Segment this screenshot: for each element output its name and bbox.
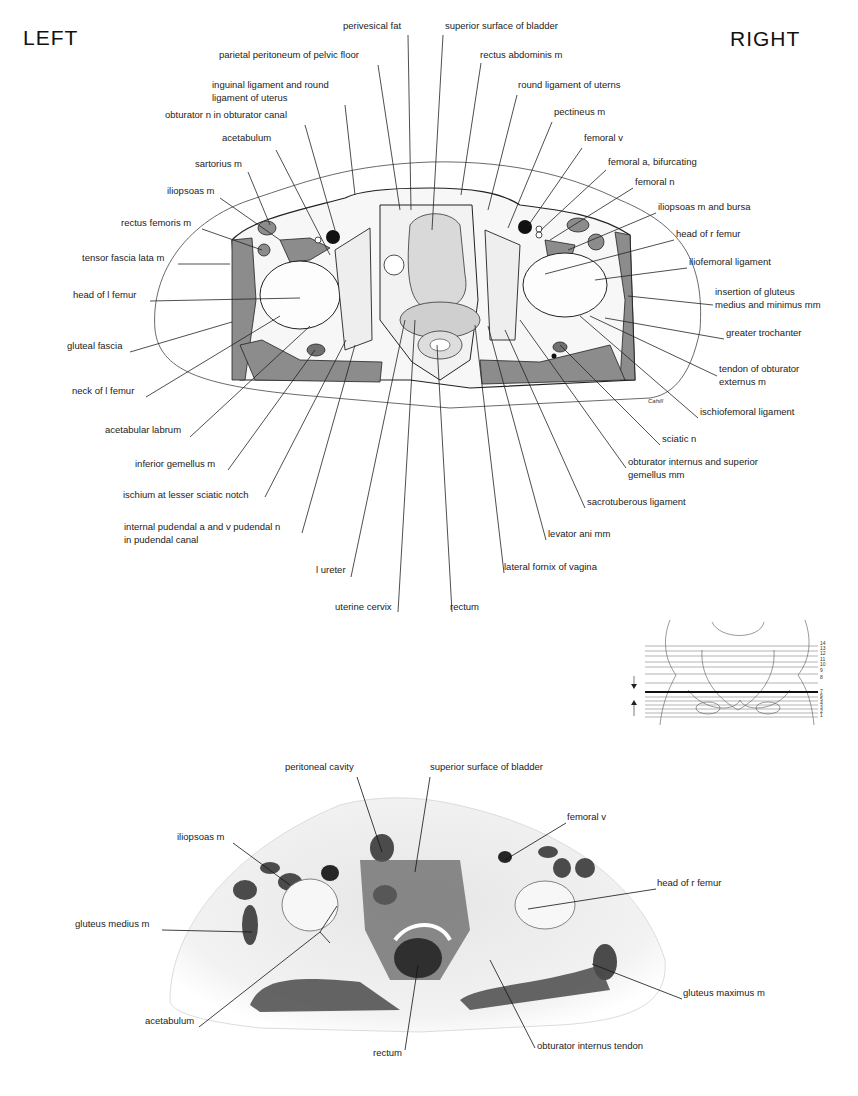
photo-label-gluteus-maximus: gluteus maximus m bbox=[683, 986, 765, 999]
photo-label-gluteus-medius: gluteus medius m bbox=[75, 917, 149, 930]
drawing-label-superior-surface-bladder: superior surface of bladder bbox=[445, 19, 558, 32]
drawing-label-levator-ani: levator ani mm bbox=[548, 527, 610, 540]
drawing-label-internal-pudendal: internal pudendal a and v pudendal n in … bbox=[124, 520, 280, 546]
drawing-label-head-l-femur: head of l femur bbox=[73, 288, 136, 301]
level-number: 1 bbox=[820, 712, 823, 718]
drawing-label-inguinal-ligament: inguinal ligament and round ligament of … bbox=[212, 78, 329, 104]
drawing-label-acetabulum-top: acetabulum bbox=[222, 131, 271, 144]
drawing-label-pectineus: pectineus m bbox=[554, 105, 605, 118]
drawing-label-l-ureter: l ureter bbox=[316, 563, 346, 576]
photo-label-peritoneal-cavity: peritoneal cavity bbox=[285, 760, 354, 773]
photo-label-obturator-internus-tendon: obturator internus tendon bbox=[537, 1039, 643, 1052]
drawing-label-femoral-a: femoral a, bifurcating bbox=[608, 155, 697, 168]
drawing-label-neck-l-femur: neck of l femur bbox=[72, 384, 134, 397]
photo-label-superior-surface-bladder-photo: superior surface of bladder bbox=[430, 760, 543, 773]
photo-label-iliopsoas-photo: iliopsoas m bbox=[177, 830, 225, 843]
drawing-label-ischium: ischium at lesser sciatic notch bbox=[123, 488, 249, 501]
drawing-label-uterine-cervix: uterine cervix bbox=[335, 600, 392, 613]
drawing-label-obturator-n: obturator n in obturator canal bbox=[165, 108, 287, 121]
photo-label-femoral-v-photo: femoral v bbox=[567, 810, 606, 823]
drawing-label-parietal-peritoneum: parietal peritoneum of pelvic floor bbox=[219, 48, 359, 61]
drawing-label-sciatic-n: sciatic n bbox=[662, 432, 696, 445]
drawing-label-round-ligament: round ligament of uterns bbox=[518, 78, 620, 91]
drawing-label-femoral-v-top: femoral v bbox=[584, 131, 623, 144]
photo-label-head-r-femur-photo: head of r femur bbox=[657, 876, 721, 889]
drawing-label-rectus-abdominis: rectus abdominis m bbox=[480, 48, 562, 61]
photo-label-acetabulum-photo: acetabulum bbox=[145, 1014, 194, 1027]
photo-label-rectum-photo: rectum bbox=[373, 1046, 402, 1059]
drawing-label-rectus-femoris: rectus femoris m bbox=[121, 216, 191, 229]
drawing-label-iliopsoas-bursa: iliopsoas m and bursa bbox=[658, 200, 750, 213]
drawing-label-perivesical-fat: perivesical fat bbox=[343, 19, 401, 32]
drawing-label-head-r-femur-top: head of r femur bbox=[676, 227, 740, 240]
drawing-label-sacrotuberous-ligament: sacrotuberous ligament bbox=[587, 495, 686, 508]
drawing-label-rectum-top: rectum bbox=[450, 600, 479, 613]
drawing-label-iliopsoas-left: iliopsoas m bbox=[167, 184, 215, 197]
drawing-label-inferior-gemellus: inferior gemellus m bbox=[135, 457, 215, 470]
drawing-label-gluteal-fascia: gluteal fascia bbox=[67, 339, 122, 352]
drawing-label-lateral-fornix: lateral fornix of vagina bbox=[504, 560, 597, 573]
level-number: 9 bbox=[820, 667, 823, 673]
drawing-label-obturator-internus-superior-gemellus: obturator internus and superior gemellus… bbox=[628, 455, 758, 481]
drawing-label-acetabular-labrum: acetabular labrum bbox=[105, 423, 181, 436]
drawing-label-sartorius: sartorius m bbox=[195, 157, 242, 170]
level-number: 8 bbox=[820, 674, 823, 680]
drawing-label-iliofemoral-ligament: iliofemoral ligament bbox=[689, 255, 771, 268]
drawing-label-tensor-fascia-lata: tensor fascia lata m bbox=[82, 251, 164, 264]
drawing-label-insertion-gluteus: insertion of gluteus medius and minimus … bbox=[715, 285, 821, 311]
artist-signature: Cahill bbox=[648, 398, 664, 404]
drawing-label-femoral-n: femoral n bbox=[635, 175, 675, 188]
drawing-label-ischiofemoral-ligament: ischiofemoral ligament bbox=[700, 405, 795, 418]
drawing-label-tendon-obturator-externus: tendon of obturator externus m bbox=[719, 362, 799, 388]
drawing-label-greater-trochanter: greater trochanter bbox=[726, 326, 802, 339]
